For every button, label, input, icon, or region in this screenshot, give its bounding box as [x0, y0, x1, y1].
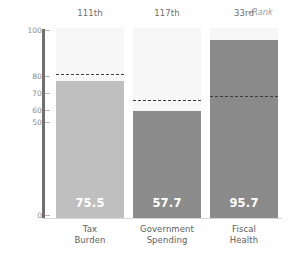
baseline	[42, 218, 282, 219]
rank-annotation-label: Rank	[252, 8, 273, 17]
y-tick-label-50: 50	[16, 118, 42, 127]
bar-government-spending[interactable]: 57.7	[133, 111, 201, 218]
rank-label-government-spending: 117th	[133, 8, 201, 18]
bar-fiscal-health[interactable]: 95.7	[210, 40, 278, 218]
category-label-government-spending: Government Spending	[128, 224, 206, 245]
y-tick-mark-100	[45, 30, 50, 31]
y-tick-label-60: 60	[16, 106, 42, 115]
category-label-fiscal-health: Fiscal Health	[210, 224, 278, 245]
left-triangle-icon: ◂	[248, 8, 251, 15]
rank-annotation: ◂Rank	[248, 8, 273, 17]
y-tick-label-0: 0	[16, 211, 42, 220]
bar-chart: 111th 117th 33rd ◂Rank 100 80 70 60 50 0…	[0, 0, 293, 256]
y-axis-spine	[42, 29, 45, 219]
bar-tax-burden[interactable]: 75.5	[56, 81, 124, 218]
y-tick-label-80: 80	[16, 72, 42, 81]
y-tick-label-70: 70	[16, 89, 42, 98]
y-tick-mark-60	[45, 110, 50, 111]
bar-value-fiscal-health: 95.7	[210, 196, 278, 210]
y-tick-mark-0	[45, 215, 50, 216]
category-label-tax-burden: Tax Burden	[56, 224, 124, 245]
bar-value-tax-burden: 75.5	[56, 196, 124, 210]
y-tick-label-100: 100	[16, 26, 42, 35]
reference-line-fiscal-health	[210, 96, 278, 97]
reference-line-tax-burden	[56, 74, 124, 75]
y-axis-ticks: 100 80 70 60 50 0	[0, 0, 42, 256]
bar-value-government-spending: 57.7	[133, 196, 201, 210]
y-tick-mark-70	[45, 93, 50, 94]
y-tick-mark-80	[45, 76, 50, 77]
y-tick-mark-50	[45, 122, 50, 123]
reference-line-government-spending	[133, 100, 201, 101]
rank-label-tax-burden: 111th	[56, 8, 124, 18]
